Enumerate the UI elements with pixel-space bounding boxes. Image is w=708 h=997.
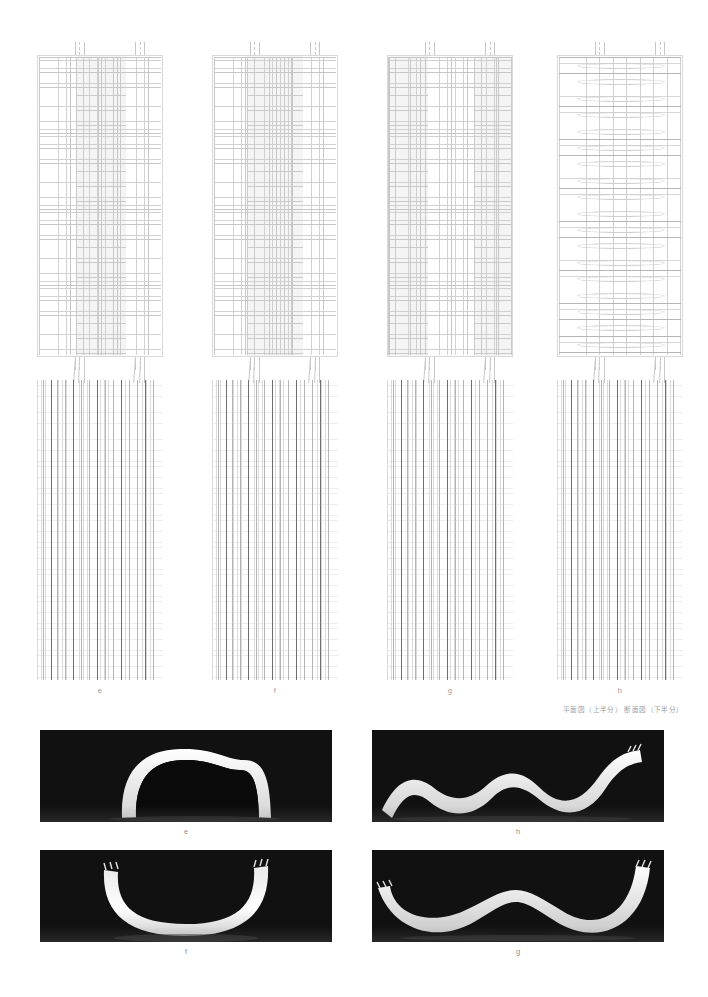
section-line: [288, 380, 289, 680]
section-line: [240, 380, 241, 680]
section-line: [479, 380, 480, 680]
section-line: [89, 380, 90, 680]
section-line: [393, 380, 394, 680]
section-line: [105, 380, 106, 680]
section-line: [657, 380, 658, 680]
photo-g: [372, 850, 664, 942]
photo-e: [40, 730, 332, 822]
section-line: [455, 380, 456, 680]
section-line: [463, 380, 464, 680]
section-line: [97, 380, 98, 680]
section-line: [113, 380, 114, 680]
section-line: [401, 380, 402, 680]
photo-label-f: f: [166, 947, 206, 956]
section-line: [577, 380, 578, 680]
section-line: [264, 380, 265, 680]
section-line: [563, 380, 564, 680]
section-line: [439, 380, 440, 680]
figure-label-f: f: [255, 686, 295, 695]
section-line: [81, 380, 82, 680]
section-panel-g: [387, 380, 513, 680]
section-line: [65, 380, 66, 680]
section-line: [328, 380, 329, 680]
section-line: [585, 380, 586, 680]
section-line: [571, 380, 572, 680]
section-line: [280, 380, 281, 680]
section-line: [248, 380, 249, 680]
section-line: [232, 380, 233, 680]
section-line: [218, 380, 219, 680]
figure-label-h: h: [600, 686, 640, 695]
architectural-plate: e f g h 平面図（上半分） 断面図（下半分） e: [0, 0, 708, 997]
section-line: [641, 380, 642, 680]
photo-f: [40, 850, 332, 942]
figure-label-e: e: [80, 686, 120, 695]
plan-section-caption: 平面図（上半分） 断面図（下半分）: [563, 704, 684, 714]
section-line: [57, 380, 58, 680]
section-line: [673, 380, 674, 680]
section-line: [495, 380, 496, 680]
section-line: [633, 380, 634, 680]
figure-label-g: g: [430, 686, 470, 695]
section-line: [665, 380, 666, 680]
section-line: [415, 380, 416, 680]
section-line: [617, 380, 618, 680]
section-line: [145, 380, 146, 680]
section-line: [503, 380, 504, 680]
photo-label-e: e: [166, 827, 206, 836]
section-line: [226, 380, 227, 680]
section-line: [312, 380, 313, 680]
section-line: [625, 380, 626, 680]
section-line: [272, 380, 273, 680]
section-line: [153, 380, 154, 680]
section-line: [423, 380, 424, 680]
section-drawing-row: [0, 0, 708, 700]
section-panel-f: [212, 380, 338, 680]
photo-h: [372, 730, 664, 822]
section-line: [447, 380, 448, 680]
section-line: [487, 380, 488, 680]
section-line: [471, 380, 472, 680]
section-line: [601, 380, 602, 680]
photo-label-h: h: [498, 827, 538, 836]
photo-label-g: g: [498, 947, 538, 956]
section-line: [296, 380, 297, 680]
section-line: [43, 380, 44, 680]
section-line: [121, 380, 122, 680]
section-line: [320, 380, 321, 680]
section-line: [73, 380, 74, 680]
section-panel-e: [37, 380, 163, 680]
section-line: [609, 380, 610, 680]
section-line: [431, 380, 432, 680]
section-line: [593, 380, 594, 680]
section-line: [51, 380, 52, 680]
section-line: [649, 380, 650, 680]
section-line: [407, 380, 408, 680]
section-line: [129, 380, 130, 680]
section-line: [137, 380, 138, 680]
section-line: [304, 380, 305, 680]
section-line: [256, 380, 257, 680]
section-panel-h: [557, 380, 683, 680]
